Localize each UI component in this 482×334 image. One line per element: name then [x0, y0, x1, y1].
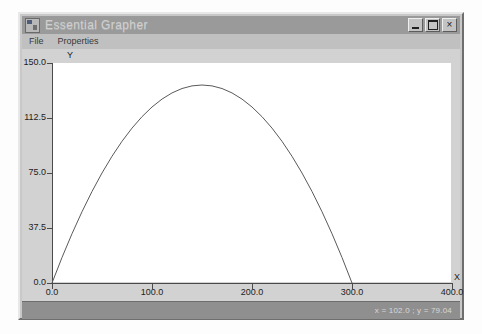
title-bar[interactable]: Essential Grapher ×	[22, 16, 460, 34]
window-title: Essential Grapher	[45, 18, 148, 32]
menu-item-properties[interactable]: Properties	[51, 34, 106, 49]
maximize-button[interactable]	[425, 18, 440, 32]
cursor-coordinates: x = 102.0 ; y = 79.04	[375, 306, 452, 315]
menu-bar: File Properties	[22, 34, 460, 50]
close-button[interactable]: ×	[442, 18, 457, 32]
status-bar: x = 102.0 ; y = 79.04	[22, 301, 460, 319]
chart-panel[interactable]: Y X 0.037.575.0112.5150.0 0.0100.0200.03…	[22, 49, 460, 301]
application-window: Essential Grapher × File Properties Y X …	[18, 12, 464, 320]
chart-plot-area	[22, 49, 460, 301]
menu-item-file[interactable]: File	[22, 34, 51, 49]
close-icon: ×	[443, 19, 456, 31]
screenshot-root: Essential Grapher × File Properties Y X …	[0, 0, 482, 334]
series-parabola	[52, 85, 352, 283]
minimize-button[interactable]	[408, 18, 423, 32]
app-graph-icon	[25, 18, 40, 33]
window-controls: ×	[408, 18, 457, 32]
